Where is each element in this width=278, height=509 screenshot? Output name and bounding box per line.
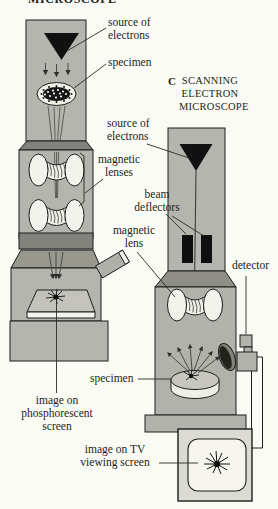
sem-specimen-stage-icon [171,371,219,399]
tem-lens-housing-shoulder [19,141,93,150]
sem-chamber-shoulder [155,271,236,287]
phosphorescent-screen [27,290,95,312]
label-phosphorescent-screen: image on phosphorescent screen [5,394,109,433]
tem-pedestal [10,321,108,361]
tem-diagram [10,20,130,361]
panel-letter-c: C [168,75,176,87]
figure-canvas: MICROSCOPE source of electrons specimen … [0,0,278,509]
label-sem-specimen: specimen [90,372,133,385]
label-tem-specimen: specimen [108,56,151,69]
label-detector: detector [232,259,269,272]
detector-mount-bracket [237,335,257,371]
beam-deflector-right [201,235,212,263]
sem-diagram [145,128,263,501]
label-tem-source-of-electrons: source of electrons [108,16,150,42]
label-tv-viewing-screen: image on TV viewing screen [72,443,158,469]
tem-specimen-grid-icon [37,83,76,106]
label-magnetic-lens: magnetic lens [109,224,159,250]
label-sem-source-of-electrons: source of electrons [107,117,149,143]
tem-base-step [19,233,93,249]
label-beam-deflectors: beam deflectors [126,188,188,214]
beam-deflector-left [182,235,193,263]
tem-viewing-port-tube [96,250,130,278]
figure-title-partial: MICROSCOPE [28,0,117,6]
panel-c-title: SCANNING ELECTRON MICROSCOPE [179,74,241,113]
phosphorescent-screen-edge [27,312,95,318]
label-magnetic-lenses: magnetic lenses [92,153,146,179]
